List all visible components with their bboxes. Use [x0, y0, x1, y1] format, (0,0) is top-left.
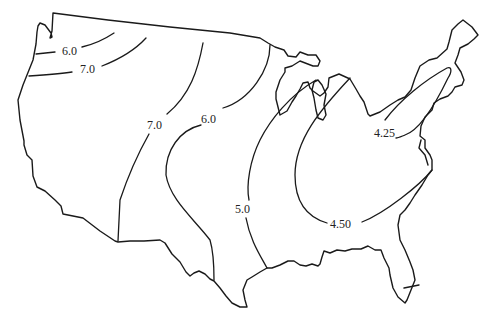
- contour-label: 4.25: [374, 126, 395, 140]
- contour-label: 7.0: [80, 62, 95, 76]
- contour-label: 4.50: [330, 217, 351, 231]
- contour-5-0: [246, 80, 316, 268]
- contour-label: 5.0: [235, 202, 250, 216]
- us-outline: [18, 13, 478, 307]
- contour-label: 7.0: [147, 118, 162, 132]
- us-isoline-map: 6.0 7.0 7.0 6.0 5.0 4.50 4.25: [0, 0, 495, 326]
- contour-7-0-west: [118, 43, 203, 241]
- contour-label: 6.0: [201, 112, 216, 126]
- contour-label: 6.0: [62, 44, 77, 58]
- chesapeake: [419, 140, 428, 165]
